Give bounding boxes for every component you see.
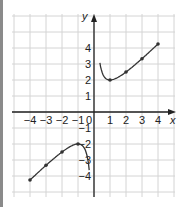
curve-right-branch bbox=[100, 44, 158, 80]
y-tick-label: −4 bbox=[78, 170, 91, 182]
x-tick-label: 1 bbox=[107, 114, 113, 126]
data-point bbox=[108, 78, 112, 82]
y-tick-label: 3 bbox=[85, 58, 91, 70]
y-tick-label: 1 bbox=[85, 90, 91, 102]
y-tick-label: 4 bbox=[85, 42, 91, 54]
x-tick-label: 4 bbox=[155, 114, 161, 126]
data-point bbox=[156, 42, 160, 46]
data-point bbox=[60, 150, 64, 154]
y-axis-arrow-icon bbox=[91, 14, 97, 22]
data-point bbox=[124, 70, 128, 74]
y-tick-label: −1 bbox=[78, 122, 91, 134]
x-tick-label: −4 bbox=[24, 114, 37, 126]
x-tick-label: −3 bbox=[40, 114, 53, 126]
x-tick-label: 2 bbox=[123, 114, 129, 126]
function-graph: xy0−4−3−2−112344321−1−2−3−4 bbox=[0, 0, 184, 207]
data-point bbox=[28, 178, 32, 182]
x-tick-label: 3 bbox=[139, 114, 145, 126]
x-axis-label: x bbox=[169, 114, 176, 126]
data-point bbox=[140, 57, 144, 61]
data-point bbox=[44, 163, 48, 167]
data-point bbox=[76, 142, 80, 146]
y-tick-label: 2 bbox=[85, 74, 91, 86]
x-tick-label: −2 bbox=[56, 114, 69, 126]
